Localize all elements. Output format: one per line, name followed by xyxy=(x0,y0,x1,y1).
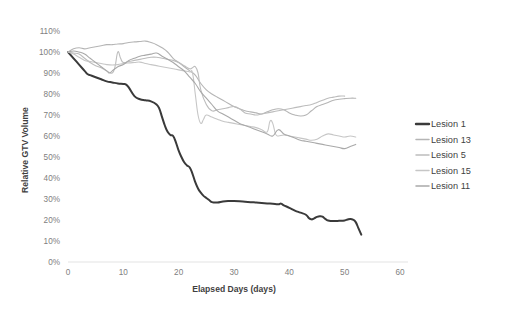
y-axis-tick-labels: 0%10%20%30%40%50%60%70%80%90%100%110% xyxy=(39,27,60,267)
x-tick-label: 40 xyxy=(285,268,295,277)
y-tick-label: 100% xyxy=(39,48,60,57)
series-lines xyxy=(68,41,361,235)
legend-label-lesion-5: Lesion 5 xyxy=(431,150,466,160)
y-tick-label: 60% xyxy=(44,132,60,141)
legend-label-lesion-13: Lesion 13 xyxy=(431,135,471,145)
y-tick-label: 70% xyxy=(44,111,60,120)
legend-label-lesion-15: Lesion 15 xyxy=(431,166,471,176)
x-tick-label: 0 xyxy=(66,268,71,277)
series-line-lesion-11 xyxy=(68,51,356,149)
series-line-lesion-15 xyxy=(68,52,356,140)
y-tick-label: 110% xyxy=(40,27,60,36)
y-tick-label: 80% xyxy=(44,90,60,99)
x-tick-label: 50 xyxy=(340,268,350,277)
y-tick-label: 90% xyxy=(44,69,60,78)
y-tick-label: 0% xyxy=(48,258,60,267)
series-line-lesion-5 xyxy=(68,52,345,115)
y-tick-label: 10% xyxy=(44,237,60,246)
y-tick-label: 30% xyxy=(44,195,60,204)
x-tick-label: 60 xyxy=(395,268,405,277)
chart-container: 0%10%20%30%40%50%60%70%80%90%100%110% 01… xyxy=(0,0,518,310)
x-axis-title: Elapsed Days (days) xyxy=(192,284,276,294)
x-tick-label: 10 xyxy=(119,268,129,277)
line-chart: 0%10%20%30%40%50%60%70%80%90%100%110% 01… xyxy=(0,0,518,310)
x-tick-label: 20 xyxy=(174,268,184,277)
x-tick-label: 30 xyxy=(229,268,239,277)
chart-legend: Lesion 1Lesion 13Lesion 5Lesion 15Lesion… xyxy=(416,119,471,191)
legend-label-lesion-1: Lesion 1 xyxy=(431,119,466,129)
y-tick-label: 40% xyxy=(44,174,60,183)
y-axis-title: Relative GTV Volume xyxy=(20,107,30,193)
legend-label-lesion-11: Lesion 11 xyxy=(431,181,470,191)
y-tick-label: 20% xyxy=(44,216,60,225)
x-axis-tick-labels: 0102030405060 xyxy=(66,268,405,277)
y-tick-label: 50% xyxy=(44,153,60,162)
